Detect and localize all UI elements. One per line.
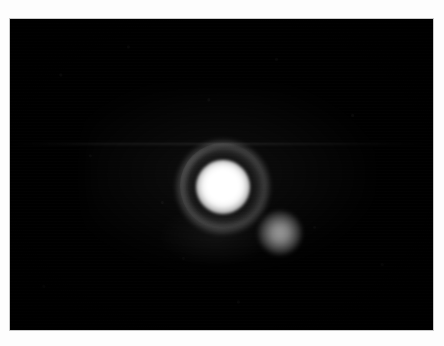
primary-source-core <box>196 160 250 214</box>
companion-source <box>258 211 302 255</box>
image-frame <box>10 19 433 330</box>
screenshot-root: Saturated bright point source Faint circ… <box>0 0 444 346</box>
